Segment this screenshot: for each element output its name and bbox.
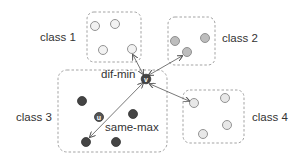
class-2-point [171, 37, 180, 46]
class-1-point [111, 20, 120, 29]
class-1-point [99, 46, 108, 55]
class-4-point [221, 94, 230, 103]
class-2-point [183, 48, 192, 57]
class-1-label: class 1 [40, 31, 76, 43]
arrow-v-to-class-4 [150, 84, 189, 101]
class-3-point [129, 110, 138, 119]
class-2-group: class 2 [168, 17, 258, 65]
class-4-label: class 4 [252, 111, 288, 123]
class-3-point [112, 138, 121, 147]
class-4-box [183, 90, 244, 143]
class-3-point [78, 97, 87, 106]
class-1-point [128, 45, 137, 54]
class-distance-diagram: class 1 class 2 u class 3 class 4 v [0, 0, 299, 159]
point-v-label: v [144, 76, 148, 83]
class-4-group: class 4 [183, 90, 288, 143]
class-4-point [190, 99, 199, 108]
class-2-point [201, 34, 210, 43]
class-4-point [223, 121, 232, 130]
class-4-point [199, 130, 208, 139]
same-max-label: same-max [105, 121, 159, 133]
point-u-label: u [97, 114, 101, 121]
class-3-label: class 3 [16, 111, 52, 123]
class-1-group: class 1 [40, 12, 141, 62]
class-3-point [82, 138, 91, 147]
dif-min-label: dif-min [101, 68, 136, 80]
arrow-v-to-class-2 [149, 56, 182, 75]
class-2-label: class 2 [222, 32, 258, 44]
class-1-point [91, 22, 100, 31]
